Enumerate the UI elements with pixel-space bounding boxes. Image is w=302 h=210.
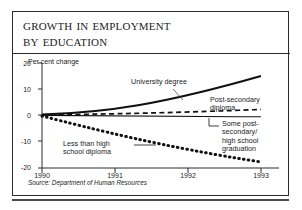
bottom-rule <box>12 199 289 201</box>
leader-line-some-post-secondary <box>209 118 219 126</box>
series-some-post-secondary <box>42 115 261 116</box>
chart-figure: Growth in Employment by Education Per ce… <box>0 0 302 210</box>
annotation-less-than-high-school: Less than high school diploma <box>63 140 111 157</box>
annotation-post-secondary-diploma: Post-secondary diploma <box>210 96 260 113</box>
annotation-some-post-secondary: Some post- secondary/ high school gradua… <box>222 120 259 154</box>
annotation-university-degree: University degree <box>131 78 187 86</box>
chart-frame: Growth in Employment by Education Per ce… <box>12 11 289 196</box>
source-note: Source: Department of Human Resources <box>28 179 147 186</box>
